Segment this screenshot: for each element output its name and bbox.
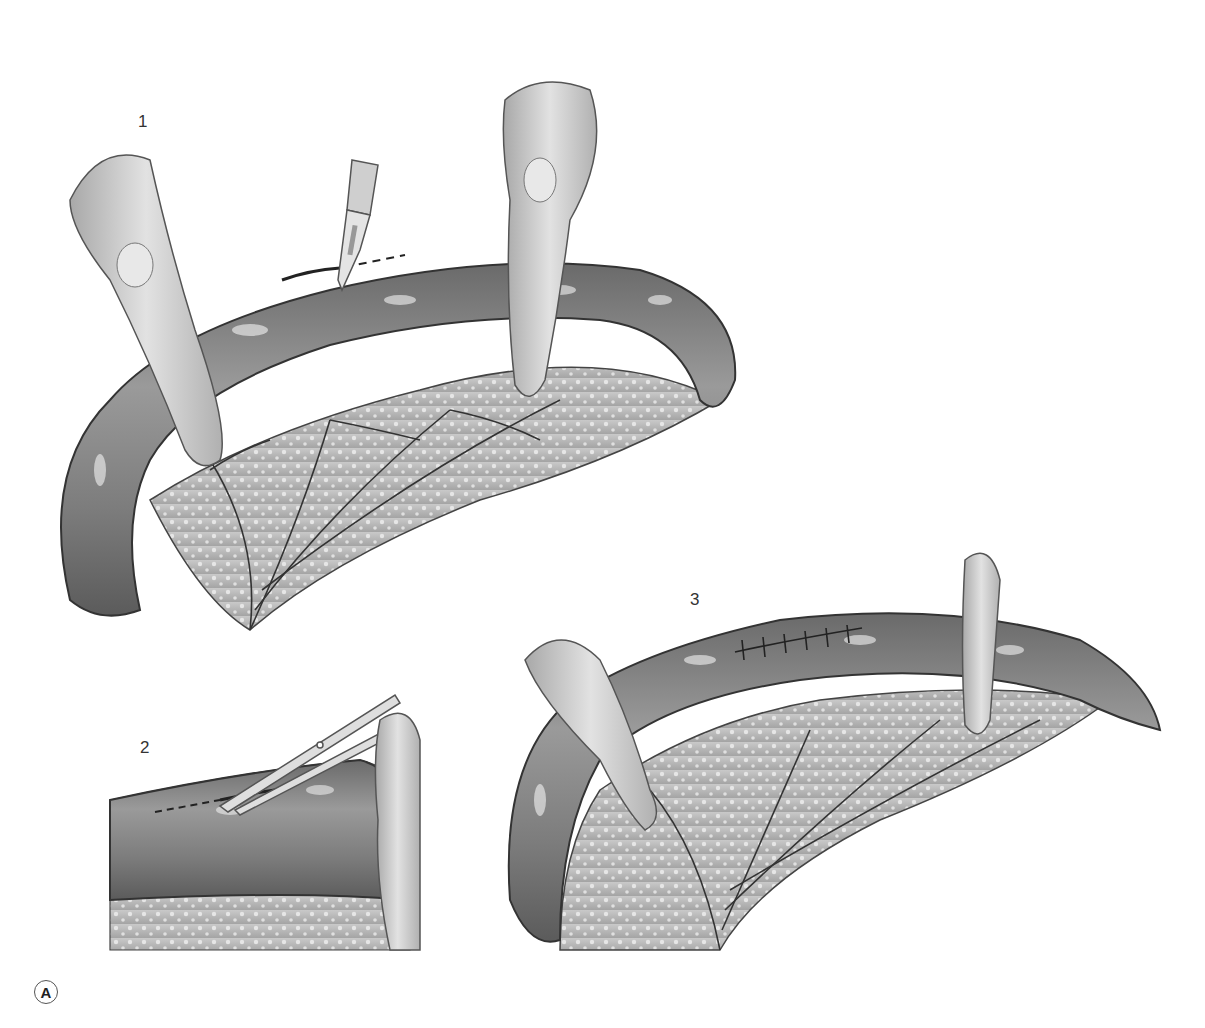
figure-label-badge: A [34,980,58,1004]
step-2-label: 2 [140,738,149,758]
step-1-label: 1 [138,112,147,132]
right-finger [503,82,596,396]
panel-2-scissors [110,695,420,950]
surgical-illustration [0,0,1205,1028]
incision-line [282,268,340,280]
panel-3-sutured [509,553,1160,950]
scalpel-icon [338,160,378,290]
step-3-label: 3 [690,590,699,610]
panel-1-incision [61,82,735,630]
